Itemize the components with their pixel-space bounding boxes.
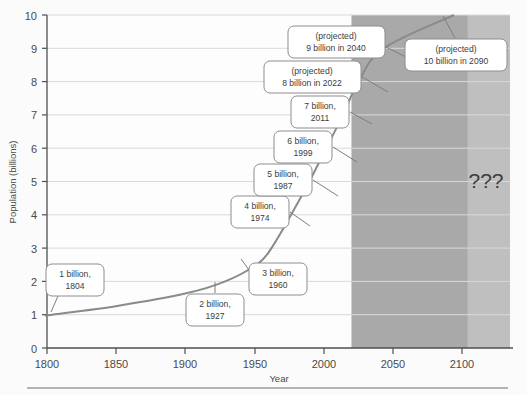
x-tick-label-1800: 1800 xyxy=(35,358,59,370)
callout-3-billion-line2: 1960 xyxy=(268,280,287,290)
y-tick-label-10: 10 xyxy=(25,10,37,22)
x-tick-label-2000: 2000 xyxy=(312,358,336,370)
callout-6-billion-line2: 1999 xyxy=(293,148,312,158)
callout-8-billion-line2: 8 billion in 2022 xyxy=(282,78,342,88)
y-axis-title: Population (billions) xyxy=(7,141,18,224)
x-tick-label-2100: 2100 xyxy=(450,358,474,370)
population-growth-chart-figure: 10 9 8 7 6 5 4 3 2 1 0 1800 1850 1900 19… xyxy=(0,0,527,395)
callout-5-billion-line1: 5 billion, xyxy=(267,169,299,179)
chart-svg: 10 9 8 7 6 5 4 3 2 1 0 1800 1850 1900 19… xyxy=(0,0,527,395)
callout-2-billion-line2: 1927 xyxy=(205,311,224,321)
y-tick-label-0: 0 xyxy=(31,343,37,355)
callout-1-billion-line1: 1 billion, xyxy=(59,269,91,279)
x-axis-title: Year xyxy=(269,373,288,384)
callout-7-billion-line2: 2011 xyxy=(311,113,330,123)
callout-6-billion[interactable]: 6 billion, 1999 xyxy=(274,131,332,163)
callout-1-billion[interactable]: 1 billion, 1804 xyxy=(46,264,104,296)
y-tick-label-6: 6 xyxy=(31,143,37,155)
callout-2-billion-line1: 2 billion, xyxy=(199,299,231,309)
callout-10-billion-projected[interactable]: (projected) 10 billion in 2090 xyxy=(405,39,507,71)
callout-4-billion[interactable]: 4 billion, 1974 xyxy=(231,196,289,228)
callout-10-billion-line1: (projected) xyxy=(435,44,476,54)
callout-3-billion-line1: 3 billion, xyxy=(262,268,294,278)
callout-2-billion[interactable]: 2 billion, 1927 xyxy=(186,294,244,326)
x-tick-label-1950: 1950 xyxy=(243,358,267,370)
callout-7-billion[interactable]: 7 billion, 2011 xyxy=(291,96,349,128)
callout-7-billion-line1: 7 billion, xyxy=(304,101,336,111)
callout-9-billion-projected[interactable]: (projected) 9 billion in 2040 xyxy=(288,26,385,58)
callout-5-billion-line2: 1987 xyxy=(273,181,292,191)
callout-8-billion-line1: (projected) xyxy=(291,66,332,76)
callout-1-billion-line2: 1804 xyxy=(65,281,84,291)
y-tick-label-1: 1 xyxy=(31,309,37,321)
callout-10-billion-line2: 10 billion in 2090 xyxy=(424,56,489,66)
callout-9-billion-line2: 9 billion in 2040 xyxy=(306,43,366,53)
x-tick-label-1900: 1900 xyxy=(173,358,197,370)
y-tick-label-9: 9 xyxy=(31,43,37,55)
callout-6-billion-line1: 6 billion, xyxy=(287,136,319,146)
y-tick-label-8: 8 xyxy=(31,76,37,88)
y-tick-label-4: 4 xyxy=(31,209,37,221)
y-tick-label-3: 3 xyxy=(31,243,37,255)
callout-3-billion[interactable]: 3 billion, 1960 xyxy=(249,263,307,295)
callout-8-billion-projected[interactable]: (projected) 8 billion in 2022 xyxy=(264,61,361,93)
callout-4-billion-line2: 1974 xyxy=(250,213,269,223)
x-tick-label-2050: 2050 xyxy=(381,358,405,370)
callout-9-billion-line1: (projected) xyxy=(315,31,356,41)
unknown-question-marks: ??? xyxy=(468,169,503,192)
y-tick-label-2: 2 xyxy=(31,276,37,288)
y-tick-label-5: 5 xyxy=(31,176,37,188)
x-tick-label-1850: 1850 xyxy=(104,358,128,370)
callout-4-billion-line1: 4 billion, xyxy=(244,201,276,211)
callout-5-billion[interactable]: 5 billion, 1987 xyxy=(254,164,312,196)
y-tick-label-7: 7 xyxy=(31,109,37,121)
